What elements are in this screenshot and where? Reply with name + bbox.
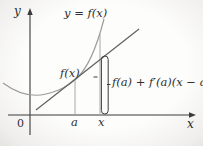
a-tick-label: a [71,117,78,129]
linear-approximation-figure: y y = f(x) f(x) f(a) + f′(a)(x − a) 0 a … [0,0,203,146]
y-axis-label: y [14,5,21,17]
origin-label: 0 [17,118,24,129]
x-tick-label: x [98,117,105,129]
y-axis-arrowhead [27,8,32,15]
tangent-line [36,29,139,110]
function-curve [3,19,104,95]
x-axis-label: x [187,118,194,130]
curve-equation-label: y = f(x) [64,8,107,20]
tangent-height-label: f(a) + f′(a)(x − a) [112,77,203,89]
curve-height-label: f(x) [60,68,80,80]
